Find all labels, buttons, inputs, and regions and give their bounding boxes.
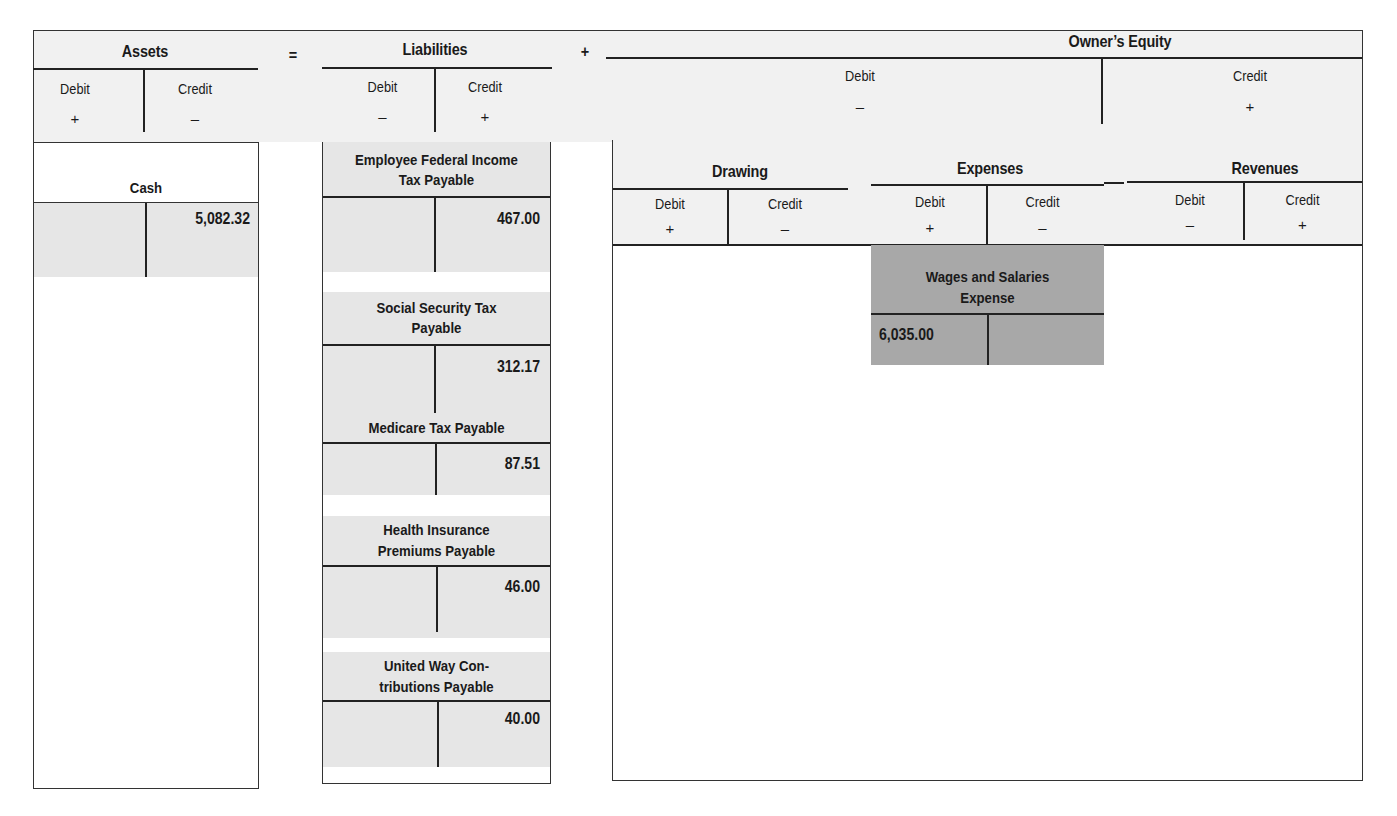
liabilities-debit-label: Debit — [351, 78, 415, 95]
expenses-t-divider — [986, 184, 988, 245]
drawing-debit-sign: + — [630, 220, 710, 237]
health-insurance-title-line1: Health Insurance — [337, 520, 537, 540]
owners-equity-debit-sign: – — [810, 98, 910, 115]
medicare-title: Medicare Tax Payable — [337, 418, 537, 438]
liabilities-debit-sign: – — [345, 108, 420, 125]
united-way-credit-amount: 40.00 — [452, 710, 540, 728]
expenses-credit-sign: – — [1000, 219, 1085, 236]
assets-credit-sign: – — [155, 110, 235, 127]
drawing-credit-sign: – — [745, 220, 825, 237]
revenues-credit-label: Credit — [1262, 191, 1343, 208]
plus-sign: + — [572, 42, 598, 62]
assets-rule — [33, 68, 258, 70]
social-security-rule — [323, 344, 550, 346]
revenues-title: Revenues — [1193, 159, 1338, 179]
cash-account-title: Cash — [49, 178, 243, 198]
expenses-debit-sign: + — [890, 219, 970, 236]
cash-t-divider — [145, 203, 147, 277]
liabilities-title: Liabilities — [354, 40, 516, 60]
united-way-divider — [437, 701, 439, 767]
drawing-title: Drawing — [655, 162, 825, 182]
wages-salaries-divider — [987, 314, 989, 365]
wages-salaries-debit-amount: 6,035.00 — [879, 326, 967, 344]
liabilities-credit-label: Credit — [451, 78, 519, 95]
medicare-rule — [323, 442, 550, 444]
drawing-t-divider — [727, 188, 729, 245]
revenues-credit-sign: + — [1255, 216, 1350, 233]
social-security-title-line2: Payable — [337, 318, 537, 338]
drawing-credit-label: Credit — [751, 195, 819, 212]
medicare-credit-amount: 87.51 — [452, 455, 540, 473]
owners-equity-credit-sign: + — [1200, 98, 1300, 115]
cash-credit-amount: 5,082.32 — [162, 210, 250, 228]
assets-t-divider — [143, 68, 145, 132]
owners-equity-credit-label: Credit — [1208, 67, 1293, 84]
wages-salaries-title-line1: Wages and Salaries — [885, 267, 1090, 287]
expenses-debit-label: Debit — [896, 193, 964, 210]
health-insurance-title-line2: Premiums Payable — [337, 541, 537, 561]
revenues-debit-sign: – — [1150, 216, 1230, 233]
revenues-rule-left — [1104, 182, 1124, 184]
liabilities-credit-sign: + — [445, 108, 525, 125]
fed-income-tax-credit-amount: 467.00 — [452, 210, 540, 228]
liabilities-rule — [322, 67, 552, 69]
expenses-title: Expenses — [905, 159, 1075, 179]
social-security-credit-amount: 312.17 — [452, 358, 540, 376]
drawing-debit-label: Debit — [636, 195, 704, 212]
health-insurance-divider — [436, 566, 438, 632]
health-insurance-credit-amount: 46.00 — [452, 578, 540, 596]
revenues-t-divider — [1243, 181, 1245, 240]
wages-salaries-title-line2: Expense — [885, 288, 1090, 308]
owners-equity-t-divider — [1101, 57, 1103, 124]
fed-income-tax-divider — [434, 197, 436, 272]
owners-equity-rule — [606, 57, 1362, 59]
united-way-title-line1: United Way Con- — [337, 656, 537, 676]
assets-debit-sign: + — [40, 110, 110, 127]
equals-sign: = — [280, 46, 306, 66]
liabilities-t-divider — [434, 67, 436, 132]
medicare-divider — [435, 443, 437, 495]
equity-right-band — [613, 124, 1362, 144]
expenses-credit-label: Credit — [1006, 193, 1078, 210]
united-way-title-line2: tributions Payable — [337, 677, 537, 697]
social-security-title-line1: Social Security Tax — [337, 298, 537, 318]
assets-title: Assets — [56, 42, 235, 62]
fed-income-tax-title-line2: Tax Payable — [337, 170, 537, 190]
assets-debit-label: Debit — [45, 80, 105, 97]
fed-income-tax-rule — [323, 196, 550, 198]
owners-equity-title: Owner’s Equity — [1018, 32, 1222, 52]
owners-equity-debit-label: Debit — [818, 67, 903, 84]
revenues-debit-label: Debit — [1156, 191, 1224, 208]
drawing-rule — [613, 188, 848, 190]
fed-income-tax-title-line1: Employee Federal Income — [337, 150, 537, 170]
assets-credit-label: Credit — [161, 80, 229, 97]
